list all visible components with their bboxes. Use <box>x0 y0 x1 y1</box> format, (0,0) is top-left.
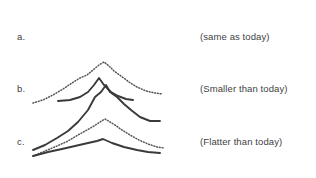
row-caption-a: (same as today) <box>200 31 270 42</box>
row-label-c: c. <box>17 136 25 147</box>
row-caption-c: (Flatter than today) <box>200 136 282 147</box>
row-label-a: a. <box>17 31 25 42</box>
row-caption-b: (Smaller than today) <box>200 83 288 94</box>
row-label-b: b. <box>17 83 25 94</box>
